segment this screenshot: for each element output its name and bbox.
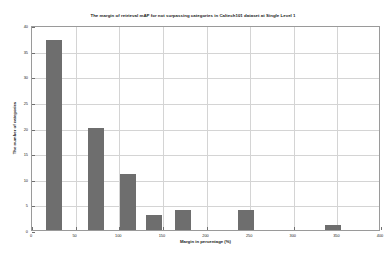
y-axis-tick — [32, 27, 35, 28]
y-axis-tick-label: 30 — [24, 75, 28, 80]
gridline-horizontal — [32, 206, 379, 207]
chart-figure: The margin of retrieval mAP for not surp… — [0, 0, 386, 259]
x-axis-tick — [76, 227, 77, 230]
y-axis-tick — [32, 232, 35, 233]
gridline-horizontal — [32, 181, 379, 182]
bar — [175, 210, 191, 231]
y-axis-tick-label: 0 — [26, 229, 28, 234]
gridline-vertical — [294, 27, 295, 230]
x-axis-tick — [163, 227, 164, 230]
gridline-vertical — [250, 27, 251, 230]
x-axis-tick — [250, 227, 251, 230]
y-axis-tick-label: 15 — [24, 152, 28, 157]
y-axis-tick — [32, 104, 35, 105]
x-axis-tick-label: 150 — [159, 233, 166, 238]
gridline-horizontal — [32, 104, 379, 105]
gridline-vertical — [163, 27, 164, 230]
x-axis-tick — [32, 227, 33, 230]
x-axis-tick — [337, 227, 338, 230]
x-axis-tick — [119, 227, 120, 230]
gridline-vertical — [337, 27, 338, 230]
bar — [238, 210, 254, 231]
gridline-vertical — [207, 27, 208, 230]
plot-area — [31, 26, 380, 231]
x-axis-tick-label: 50 — [72, 233, 76, 238]
x-axis-tick-label: 250 — [246, 233, 253, 238]
y-axis-tick-label: 40 — [24, 24, 28, 29]
gridline-horizontal — [32, 130, 379, 131]
x-axis-tick-label: 200 — [202, 233, 209, 238]
y-axis-label: The number of categories — [12, 102, 17, 155]
y-axis-tick — [32, 78, 35, 79]
gridline-horizontal — [32, 53, 379, 54]
bar — [120, 174, 136, 230]
x-axis-tick-label: 350 — [333, 233, 340, 238]
x-axis-tick — [381, 227, 382, 230]
y-axis-tick — [32, 181, 35, 182]
y-axis-tick — [32, 53, 35, 54]
x-axis-tick-label: 300 — [290, 233, 297, 238]
y-axis-tick-label: 5 — [26, 203, 28, 208]
x-axis-tick — [294, 227, 295, 230]
x-axis-tick-label: 400 — [377, 233, 384, 238]
bar — [46, 40, 62, 230]
x-axis-tick — [207, 227, 208, 230]
x-axis-tick-label: 0 — [30, 233, 32, 238]
y-axis-tick — [32, 130, 35, 131]
chart-title: The margin of retrieval mAP for not surp… — [0, 13, 386, 18]
gridline-horizontal — [32, 155, 379, 156]
y-axis-tick-label: 25 — [24, 100, 28, 105]
y-axis-tick-label: 20 — [24, 126, 28, 131]
x-axis-label: Margin in percentage (%) — [31, 239, 380, 244]
y-axis-tick-label: 35 — [24, 49, 28, 54]
y-axis-tick — [32, 206, 35, 207]
bar — [88, 128, 104, 231]
y-axis-tick-label: 10 — [24, 177, 28, 182]
x-axis-tick-label: 100 — [115, 233, 122, 238]
bar — [146, 215, 162, 230]
bar — [325, 225, 341, 230]
gridline-vertical — [76, 27, 77, 230]
gridline-horizontal — [32, 78, 379, 79]
y-axis-tick — [32, 155, 35, 156]
